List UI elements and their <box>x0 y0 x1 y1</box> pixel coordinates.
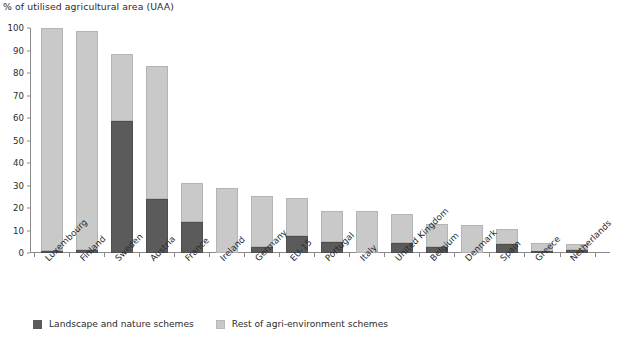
bar-segment-landscape-and-nature-schemes[interactable] <box>111 121 133 253</box>
y-axis-tick-label: 60 <box>0 113 24 123</box>
chart-container: % of utilised agricultural area (UAA) 01… <box>0 0 620 337</box>
bar-group[interactable] <box>146 28 168 253</box>
y-axis-line <box>30 28 31 253</box>
bar-group[interactable] <box>321 28 343 253</box>
plot-area: 0102030405060708090100 <box>30 28 610 253</box>
bar-group[interactable] <box>566 28 588 253</box>
bar-group[interactable] <box>496 28 518 253</box>
y-axis-tick-label: 30 <box>0 181 24 191</box>
y-axis-tick-label: 40 <box>0 158 24 168</box>
y-axis-tick-mark <box>27 28 30 29</box>
y-axis-tick-mark <box>27 253 30 254</box>
chart-legend: Landscape and nature schemes Rest of agr… <box>33 319 410 329</box>
y-axis-tick-label: 50 <box>0 136 24 146</box>
legend-item-landscape: Landscape and nature schemes <box>33 319 194 329</box>
y-axis-tick-mark <box>27 185 30 186</box>
bar-group[interactable] <box>391 28 413 253</box>
bar-segment-rest-of-agri-environment-schemes[interactable] <box>181 183 203 222</box>
legend-swatch-light-icon <box>216 320 225 329</box>
y-axis-tick-label: 10 <box>0 226 24 236</box>
legend-item-rest: Rest of agri-environment schemes <box>216 319 388 329</box>
y-axis-tick-mark <box>27 118 30 119</box>
bar-group[interactable] <box>41 28 63 253</box>
y-axis-tick-mark <box>27 163 30 164</box>
bar-segment-rest-of-agri-environment-schemes[interactable] <box>146 66 168 199</box>
bar-segment-rest-of-agri-environment-schemes[interactable] <box>111 54 133 121</box>
bar-group[interactable] <box>111 28 133 253</box>
legend-swatch-dark-icon <box>33 320 42 329</box>
bar-segment-rest-of-agri-environment-schemes[interactable] <box>286 198 308 236</box>
bar-group[interactable] <box>531 28 553 253</box>
y-axis-tick-mark <box>27 208 30 209</box>
bar-segment-rest-of-agri-environment-schemes[interactable] <box>321 211 343 242</box>
y-axis-tick-label: 80 <box>0 68 24 78</box>
x-axis-labels: LuxembourgFinlandSwedenAustriaFranceIrel… <box>30 256 610 314</box>
chart-axis-title: % of utilised agricultural area (UAA) <box>3 1 174 12</box>
bar-group[interactable] <box>286 28 308 253</box>
y-axis-tick-mark <box>27 230 30 231</box>
y-axis-tick-mark <box>27 73 30 74</box>
y-axis-tick-label: 0 <box>0 248 24 258</box>
legend-label-landscape: Landscape and nature schemes <box>49 319 194 329</box>
y-axis-tick-label: 90 <box>0 46 24 56</box>
y-axis-tick-mark <box>27 95 30 96</box>
y-axis-tick-label: 70 <box>0 91 24 101</box>
bar-segment-rest-of-agri-environment-schemes[interactable] <box>41 28 63 252</box>
bar-segment-rest-of-agri-environment-schemes[interactable] <box>76 31 98 250</box>
y-axis-tick-label: 20 <box>0 203 24 213</box>
y-axis-tick-mark <box>27 50 30 51</box>
bar-group[interactable] <box>251 28 273 253</box>
bar-group[interactable] <box>181 28 203 253</box>
bar-group[interactable] <box>356 28 378 253</box>
bar-group[interactable] <box>461 28 483 253</box>
bar-group[interactable] <box>216 28 238 253</box>
legend-label-rest: Rest of agri-environment schemes <box>232 319 388 329</box>
y-axis-tick-mark <box>27 140 30 141</box>
y-axis-tick-label: 100 <box>0 23 24 33</box>
